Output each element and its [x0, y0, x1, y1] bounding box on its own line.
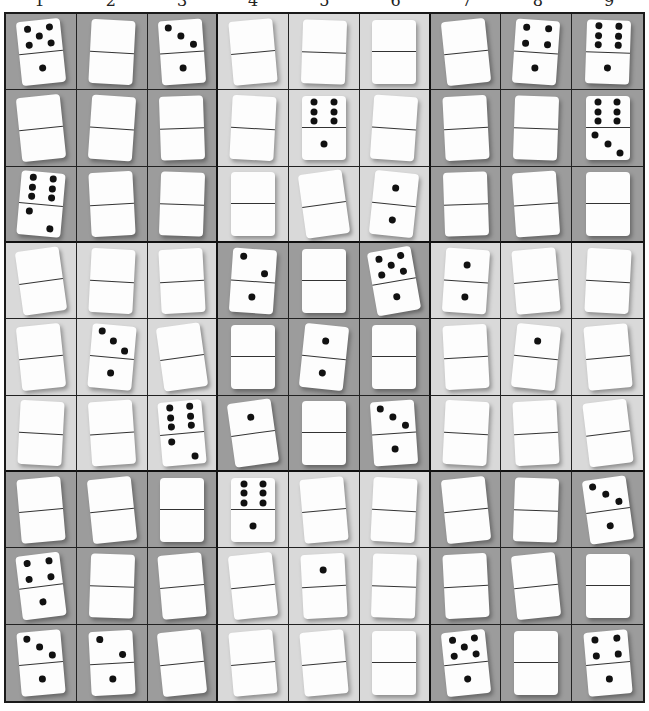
grid-cell[interactable]: [289, 14, 360, 90]
domino-tile[interactable]: [87, 323, 136, 391]
domino-tile[interactable]: [158, 18, 206, 85]
grid-cell[interactable]: [218, 14, 289, 90]
grid-cell[interactable]: [360, 396, 431, 472]
blank-domino-tile[interactable]: [442, 171, 488, 236]
blank-domino-tile[interactable]: [372, 631, 416, 695]
grid-cell[interactable]: [6, 243, 77, 319]
grid-cell[interactable]: [218, 625, 289, 701]
grid-cell[interactable]: [77, 625, 148, 701]
grid-cell[interactable]: [501, 396, 572, 472]
domino-tile[interactable]: [88, 630, 135, 696]
grid-cell[interactable]: [148, 472, 219, 548]
blank-domino-tile[interactable]: [159, 95, 205, 160]
domino-tile[interactable]: [440, 629, 490, 697]
grid-cell[interactable]: [6, 90, 77, 166]
domino-tile[interactable]: [302, 96, 346, 160]
blank-domino-tile[interactable]: [511, 552, 561, 620]
blank-domino-tile[interactable]: [86, 476, 136, 544]
blank-domino-tile[interactable]: [583, 323, 632, 391]
blank-domino-tile[interactable]: [158, 248, 205, 314]
grid-cell[interactable]: [218, 548, 289, 624]
grid-cell[interactable]: [431, 90, 502, 166]
grid-cell[interactable]: [431, 548, 502, 624]
grid-cell[interactable]: [218, 319, 289, 395]
grid-cell[interactable]: [431, 396, 502, 472]
blank-domino-tile[interactable]: [16, 323, 66, 391]
domino-tile[interactable]: [16, 629, 65, 697]
grid-cell[interactable]: [360, 319, 431, 395]
grid-cell[interactable]: [77, 14, 148, 90]
domino-tile[interactable]: [441, 247, 489, 314]
grid-cell[interactable]: [148, 625, 219, 701]
domino-tile[interactable]: [586, 96, 630, 160]
blank-domino-tile[interactable]: [16, 476, 65, 544]
blank-domino-tile[interactable]: [301, 19, 347, 84]
blank-domino-tile[interactable]: [159, 171, 205, 236]
grid-cell[interactable]: [431, 472, 502, 548]
domino-tile[interactable]: [227, 398, 279, 468]
blank-domino-tile[interactable]: [88, 248, 135, 314]
grid-cell[interactable]: [501, 243, 572, 319]
grid-cell[interactable]: [218, 472, 289, 548]
blank-domino-tile[interactable]: [442, 95, 489, 161]
grid-cell[interactable]: [360, 243, 431, 319]
domino-tile[interactable]: [16, 170, 65, 238]
grid-cell[interactable]: [289, 319, 360, 395]
blank-domino-tile[interactable]: [582, 398, 633, 467]
domino-tile[interactable]: [512, 18, 560, 85]
blank-domino-tile[interactable]: [229, 18, 278, 86]
blank-domino-tile[interactable]: [302, 249, 346, 313]
grid-cell[interactable]: [501, 548, 572, 624]
grid-cell[interactable]: [218, 243, 289, 319]
blank-domino-tile[interactable]: [88, 171, 135, 237]
grid-cell[interactable]: [431, 167, 502, 243]
blank-domino-tile[interactable]: [586, 554, 630, 618]
domino-tile[interactable]: [581, 475, 633, 545]
domino-tile[interactable]: [583, 629, 632, 697]
grid-cell[interactable]: [77, 319, 148, 395]
grid-cell[interactable]: [572, 90, 643, 166]
grid-cell[interactable]: [572, 14, 643, 90]
blank-domino-tile[interactable]: [440, 18, 490, 86]
blank-domino-tile[interactable]: [15, 246, 67, 316]
blank-domino-tile[interactable]: [87, 95, 135, 162]
grid-cell[interactable]: [77, 472, 148, 548]
blank-domino-tile[interactable]: [156, 322, 208, 392]
grid-cell[interactable]: [431, 243, 502, 319]
domino-tile[interactable]: [15, 552, 66, 621]
grid-cell[interactable]: [148, 396, 219, 472]
blank-domino-tile[interactable]: [298, 169, 350, 239]
domino-tile[interactable]: [585, 19, 631, 84]
blank-domino-tile[interactable]: [16, 94, 66, 162]
blank-domino-tile[interactable]: [513, 400, 560, 466]
blank-domino-tile[interactable]: [514, 631, 558, 695]
grid-cell[interactable]: [431, 625, 502, 701]
grid-cell[interactable]: [360, 472, 431, 548]
grid-cell[interactable]: [360, 14, 431, 90]
blank-domino-tile[interactable]: [17, 400, 64, 466]
grid-cell[interactable]: [148, 319, 219, 395]
domino-tile[interactable]: [369, 170, 419, 238]
grid-cell[interactable]: [77, 167, 148, 243]
blank-domino-tile[interactable]: [372, 325, 416, 389]
blank-domino-tile[interactable]: [513, 95, 559, 160]
domino-tile[interactable]: [299, 323, 349, 391]
grid-cell[interactable]: [289, 625, 360, 701]
grid-cell[interactable]: [77, 396, 148, 472]
grid-cell[interactable]: [289, 396, 360, 472]
grid-cell[interactable]: [218, 167, 289, 243]
grid-cell[interactable]: [360, 548, 431, 624]
grid-cell[interactable]: [6, 319, 77, 395]
domino-tile[interactable]: [370, 399, 418, 466]
domino-tile[interactable]: [16, 18, 66, 86]
grid-cell[interactable]: [218, 396, 289, 472]
blank-domino-tile[interactable]: [229, 629, 278, 697]
blank-domino-tile[interactable]: [586, 172, 630, 236]
grid-cell[interactable]: [572, 243, 643, 319]
blank-domino-tile[interactable]: [372, 20, 416, 84]
grid-cell[interactable]: [431, 319, 502, 395]
blank-domino-tile[interactable]: [160, 478, 204, 542]
domino-tile[interactable]: [229, 247, 277, 314]
domino-tile[interactable]: [367, 245, 421, 316]
blank-domino-tile[interactable]: [302, 401, 346, 465]
